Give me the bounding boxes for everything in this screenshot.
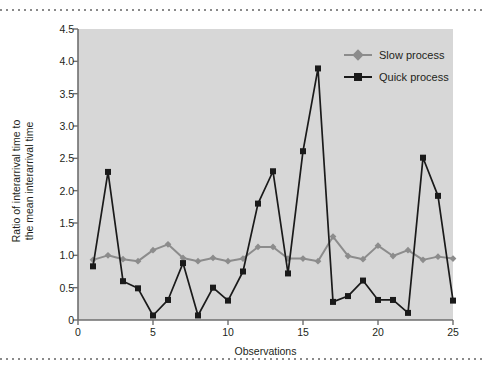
y-tick-label: 3.0 bbox=[50, 121, 74, 131]
chart-figure: 00.51.01.52.02.53.03.54.04.5 0510152025 … bbox=[0, 0, 482, 369]
y-tick-label: 2.5 bbox=[50, 153, 74, 163]
y-axis-title: Ratio of interarrival time to the mean i… bbox=[10, 81, 36, 281]
y-axis-title-line-1: Ratio of interarrival time to bbox=[10, 120, 22, 243]
y-tick-label: 3.5 bbox=[50, 89, 74, 99]
legend-item-quick-process[interactable]: Quick process bbox=[344, 66, 449, 88]
chart-legend: Slow process Quick process bbox=[344, 44, 449, 88]
y-tick-label: 1.5 bbox=[50, 218, 74, 228]
x-tick-label: 0 bbox=[63, 326, 93, 338]
y-tick-label: 0 bbox=[50, 315, 74, 325]
legend-label-slow-process: Slow process bbox=[379, 49, 444, 61]
x-tick-label: 20 bbox=[363, 326, 393, 338]
data-series bbox=[90, 65, 457, 318]
x-tick-label: 15 bbox=[288, 326, 318, 338]
diamond-marker-icon bbox=[352, 49, 363, 60]
x-axis-title: Observations bbox=[78, 345, 453, 357]
y-tick-label: 0.5 bbox=[50, 283, 74, 293]
y-tick-label: 4.5 bbox=[50, 24, 74, 34]
y-tick-label: 1.0 bbox=[50, 250, 74, 260]
square-marker-icon bbox=[354, 73, 362, 81]
y-tick-label: 4.0 bbox=[50, 56, 74, 66]
x-tick-label: 5 bbox=[138, 326, 168, 338]
x-tick-label: 25 bbox=[438, 326, 468, 338]
legend-label-quick-process: Quick process bbox=[379, 71, 449, 83]
legend-swatch-quick-process bbox=[344, 71, 372, 83]
x-tick-label: 10 bbox=[213, 326, 243, 338]
y-axis-title-line-2: the mean interarrival time bbox=[23, 122, 35, 240]
y-axis-tick-labels: 00.51.01.52.02.53.03.54.04.5 bbox=[44, 0, 74, 369]
y-tick-label: 2.0 bbox=[50, 186, 74, 196]
legend-item-slow-process[interactable]: Slow process bbox=[344, 44, 449, 66]
legend-swatch-slow-process bbox=[344, 49, 372, 61]
